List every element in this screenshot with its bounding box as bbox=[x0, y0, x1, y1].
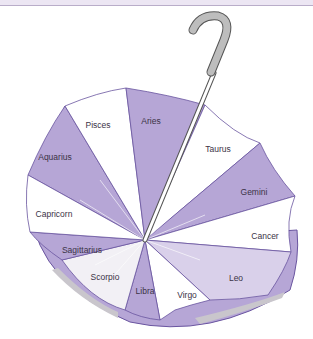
label-libra: Libra bbox=[136, 286, 155, 296]
zodiac-umbrella-diagram: Pisces Aries Taurus Gemini Cancer Leo Vi… bbox=[0, 0, 313, 339]
label-capricorn: Capricorn bbox=[36, 209, 73, 219]
label-sagittarius: Sagittarius bbox=[62, 245, 102, 255]
label-cancer: Cancer bbox=[251, 231, 279, 241]
label-pisces: Pisces bbox=[85, 120, 110, 130]
label-scorpio: Scorpio bbox=[91, 272, 120, 282]
label-virgo: Virgo bbox=[177, 290, 197, 300]
label-aquarius: Aquarius bbox=[38, 152, 72, 162]
label-gemini: Gemini bbox=[241, 187, 268, 197]
label-leo: Leo bbox=[229, 273, 243, 283]
label-aries: Aries bbox=[141, 116, 160, 126]
label-taurus: Taurus bbox=[205, 144, 231, 154]
